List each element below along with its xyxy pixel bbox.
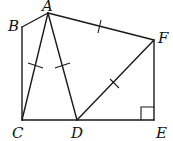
segment-ab [22,13,48,27]
label-b: B [7,17,19,35]
geometry-diagram: A B C D E F [0,0,173,141]
label-e: E [155,124,167,141]
segment-ac [22,13,48,120]
label-d: D [70,124,83,141]
segment-df [77,40,154,120]
segment-ad [48,13,77,120]
segment-fa [48,13,154,40]
label-c: C [12,124,24,141]
label-f: F [157,29,169,47]
right-angle-mark [141,107,154,120]
label-a: A [40,0,53,15]
